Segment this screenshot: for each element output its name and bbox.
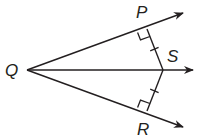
angle-bisector-diagram: P S Q R — [0, 0, 206, 140]
label-s: S — [167, 47, 179, 66]
label-p: P — [136, 3, 148, 22]
label-r: R — [137, 120, 149, 139]
label-q: Q — [5, 61, 18, 80]
